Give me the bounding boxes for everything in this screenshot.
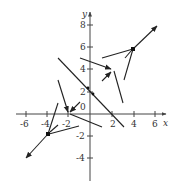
y-tick-label: 4 (80, 64, 86, 74)
y-axis-label: y (81, 9, 88, 19)
vector-field-diagram: -6 -4 -2 2 4 6 x 8 6 4 2 -2 -4 y 0 (0, 0, 180, 189)
vector-arrow (70, 102, 80, 112)
vector-arrow (26, 134, 48, 158)
point-marker (92, 93, 95, 96)
x-tick-label: 6 (152, 119, 158, 129)
y-tick-label: -2 (76, 131, 85, 141)
point-marker (46, 132, 50, 136)
y-tick-label: 6 (80, 42, 86, 52)
y-tick-label: 2 (80, 87, 86, 97)
point-marker (131, 47, 135, 51)
point-marker (87, 87, 90, 90)
x-tick-label: 4 (131, 119, 137, 129)
vector-line (50, 125, 58, 132)
vector-arrow (58, 80, 68, 112)
x-tick-label: 2 (110, 119, 116, 129)
x-tick-label: -4 (41, 119, 50, 129)
x-axis-label: x (163, 118, 168, 128)
y-tick-label: -4 (76, 153, 85, 163)
vector-line (114, 71, 123, 103)
vector-line (125, 51, 131, 58)
origin-label: 0 (80, 102, 86, 112)
x-tick-label: -2 (62, 119, 71, 129)
vector-arrow (102, 72, 111, 81)
x-tick-label: -6 (20, 119, 29, 129)
vector-arrow (133, 26, 157, 49)
vector-line (70, 114, 102, 127)
y-tick-label: 8 (80, 20, 86, 30)
